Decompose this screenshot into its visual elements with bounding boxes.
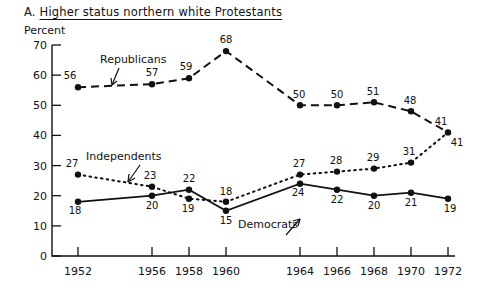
y-axis-ticks <box>52 45 61 256</box>
y-tick-label: 60 <box>33 69 47 82</box>
data-label: 20 <box>368 200 381 211</box>
data-label: 19 <box>182 203 195 214</box>
data-label: 27 <box>66 158 79 169</box>
x-tick-label: 1966 <box>323 265 351 278</box>
data-label: 50 <box>331 89 344 100</box>
data-label: 24 <box>292 187 305 198</box>
y-tick-label: 0 <box>40 250 47 263</box>
data-label: 22 <box>183 173 196 184</box>
data-label: 41 <box>451 137 464 148</box>
data-label: 23 <box>144 170 157 181</box>
x-tick-label: 1964 <box>286 265 314 278</box>
annotation-democrats: Democrats <box>238 218 300 235</box>
chart-figure: A. Higher status northern white Protesta… <box>0 0 484 291</box>
y-tick-label: 70 <box>33 39 47 52</box>
x-tick-label: 1972 <box>434 265 462 278</box>
x-tick-label: 1968 <box>360 265 388 278</box>
data-label: 18 <box>69 205 82 216</box>
y-tick-label: 10 <box>33 220 47 233</box>
series-label-republicans: Republicans <box>100 53 167 66</box>
x-tick-label: 1958 <box>175 265 203 278</box>
data-label: 31 <box>403 146 416 157</box>
x-tick-label: 1952 <box>64 265 92 278</box>
data-label: 68 <box>220 34 233 45</box>
y-tick-label: 50 <box>33 99 47 112</box>
data-label: 28 <box>330 155 343 166</box>
series-label-independents: Independents <box>86 150 162 163</box>
data-label: 41 <box>435 116 448 127</box>
y-tick-label: 20 <box>33 190 47 203</box>
x-axis-ticks <box>78 247 448 256</box>
data-label: 22 <box>331 194 344 205</box>
data-label: 19 <box>444 203 457 214</box>
y-axis-tick-labels: 70 60 50 40 30 20 10 0 <box>33 39 47 263</box>
y-tick-label: 30 <box>33 160 47 173</box>
data-label: 50 <box>293 89 306 100</box>
data-label: 27 <box>293 158 306 169</box>
chart-plot-area: 70 60 50 40 30 20 10 0 1952 1956 1958 1 <box>0 0 484 291</box>
data-label: 21 <box>405 197 418 208</box>
data-label: 56 <box>64 70 77 81</box>
data-label: 29 <box>367 152 380 163</box>
series-republicans: 56 57 59 68 50 50 51 48 41 <box>64 34 452 136</box>
data-label: 51 <box>367 86 380 97</box>
x-tick-label: 1960 <box>212 265 240 278</box>
data-label: 20 <box>146 200 159 211</box>
x-tick-label: 1956 <box>138 265 166 278</box>
y-tick-label: 40 <box>33 129 47 142</box>
data-label: 59 <box>180 61 193 72</box>
series-label-democrats: Democrats <box>238 218 298 231</box>
data-label: 48 <box>404 95 417 106</box>
x-axis-tick-labels: 1952 1956 1958 1960 1964 1966 1968 1970 … <box>64 265 462 278</box>
data-label: 15 <box>220 215 233 226</box>
x-tick-label: 1970 <box>397 265 425 278</box>
data-label: 18 <box>220 186 233 197</box>
data-label: 57 <box>146 67 159 78</box>
